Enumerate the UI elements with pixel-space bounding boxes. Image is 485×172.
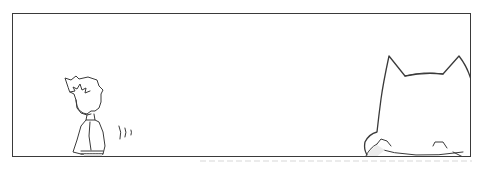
cat-figure xyxy=(365,56,471,157)
scan-artifact xyxy=(200,160,472,162)
boy-arm xyxy=(89,122,91,150)
motion-lines-icon xyxy=(119,126,132,139)
boy-figure xyxy=(65,76,105,154)
cat-chin-line xyxy=(375,148,463,155)
cat-head xyxy=(365,56,471,157)
boy-hair xyxy=(65,76,103,114)
cat-paw-right xyxy=(433,142,447,148)
cat-paw-left xyxy=(377,139,391,146)
boy-pants xyxy=(84,154,102,157)
boy-collar xyxy=(86,114,95,120)
boy-bangs xyxy=(70,84,90,93)
comic-panel xyxy=(12,13,471,157)
panel-artwork xyxy=(13,14,471,157)
